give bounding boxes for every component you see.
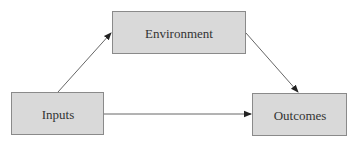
node-environment-label: Environment [145, 26, 213, 41]
node-environment: Environment [113, 12, 246, 54]
node-outcomes: Outcomes [253, 94, 347, 136]
diagram: Environment Inputs Outcomes [0, 0, 358, 146]
node-inputs: Inputs [12, 93, 104, 135]
edge-inputs-to-environment [58, 33, 111, 92]
node-inputs-label: Inputs [42, 107, 75, 122]
node-outcomes-label: Outcomes [274, 108, 327, 123]
edge-environment-to-outcomes [246, 33, 298, 92]
